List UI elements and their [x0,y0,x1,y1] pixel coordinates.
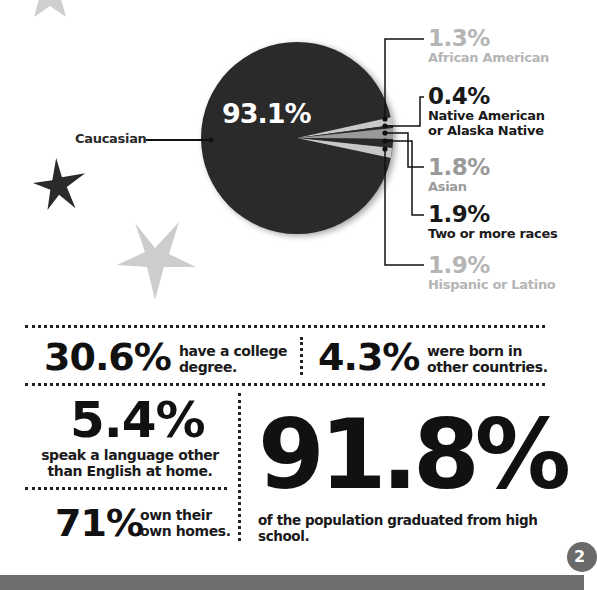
callout-pct: 1.3% [428,26,549,50]
caucasian-label: Caucasian [75,131,147,146]
page-number: 2 [567,542,597,572]
star-decoration-light [117,220,199,302]
callout-pct: 1.9% [428,202,557,226]
stat-homes-line1: own their [140,507,231,523]
star-decoration-dark [32,155,90,213]
callout-lines [380,30,430,270]
stat-born-pct: 4.3% [318,336,419,378]
callout-name: African American [428,50,549,65]
divider-left-lower [25,487,227,490]
pie-center-label: 93.1% [222,98,311,129]
pie-chart [195,35,405,245]
stat-homes-line2: own homes. [140,523,231,539]
callout-pct: 1.8% [428,155,490,179]
stat-college-pct: 30.6% [44,336,171,378]
stat-language-pct: 5.4% [70,393,205,447]
stat-born-line2: other countries. [427,359,548,375]
stat-born-text: were born in other countries. [427,343,548,375]
stat-language-line2: than English at home. [40,463,220,479]
stat-language-text: speak a language other than English at h… [40,447,220,479]
callout-african-american: 1.3% African American [428,26,549,65]
bottom-band [0,575,584,590]
stat-born-line1: were born in [427,343,548,359]
divider-vertical-top [300,337,303,375]
callout-name: Two or more races [428,226,557,241]
callout-two-or-more: 1.9% Two or more races [428,202,557,241]
callout-name-2: or Alaska Native [428,123,545,138]
caucasian-leader-line [146,139,211,141]
stat-highschool-text: of the population graduated from high sc… [258,512,584,544]
divider-top [25,325,545,328]
callout-name: Asian [428,179,490,194]
stat-college-text: have a college degree. [179,343,287,375]
callout-hispanic: 1.9% Hispanic or Latino [428,253,555,292]
stat-language-line1: speak a language other [40,447,220,463]
callout-asian: 1.8% Asian [428,155,490,194]
stat-highschool-pct: 91.8% [258,405,566,505]
stat-college-line1: have a college [179,343,287,359]
stat-homes-text: own their own homes. [140,507,231,539]
star-decoration-top [20,0,80,30]
callout-pct: 1.9% [428,253,555,277]
divider-middle [25,383,545,386]
callout-name: Hispanic or Latino [428,277,555,292]
divider-vertical-bottom [238,393,241,541]
callout-pct: 0.4% [428,84,545,108]
callout-native-american: 0.4% Native American or Alaska Native [428,84,545,138]
stat-college-line2: degree. [179,359,287,375]
callout-name: Native American [428,108,545,123]
stat-homes-pct: 71% [55,502,143,544]
